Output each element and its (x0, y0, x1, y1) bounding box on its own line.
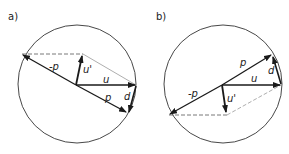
label-neg-p-a: -p (49, 61, 59, 72)
label-u-b: u (251, 73, 257, 84)
vector-u-prime-a (76, 56, 82, 85)
vector-p-b (222, 55, 271, 85)
label-u-prime-b: u' (227, 93, 236, 104)
label-u-a: u (103, 74, 109, 85)
label-d-b: d (268, 65, 275, 76)
label-p-a: p (104, 92, 111, 103)
label-u-prime-a: u' (83, 64, 92, 75)
label-d-a: d (124, 91, 131, 102)
panel-a-label: a) (8, 11, 18, 22)
vector-p-a (76, 85, 126, 112)
panel-b: b) p u d -p u' (156, 11, 282, 143)
label-neg-p-b: -p (188, 88, 198, 99)
panel-a: a) -p u' u p d (8, 11, 136, 143)
label-p-b: p (239, 57, 246, 68)
vector-u-prime-b (222, 85, 226, 112)
panel-b-label: b) (156, 11, 166, 22)
vector-diagram: a) -p u' u p d b) p (0, 0, 289, 154)
